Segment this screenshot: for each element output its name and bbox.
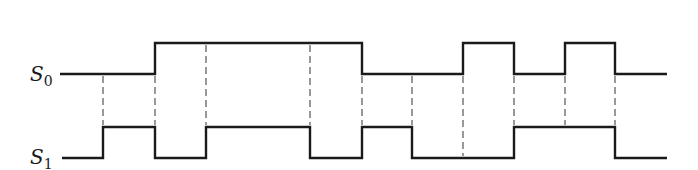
waveform-s0 [60, 43, 667, 74]
signal-label-s1: S1 [30, 145, 53, 170]
timing-diagram: S0 S1 [0, 0, 698, 170]
waveform-s1 [62, 127, 667, 158]
signal-waveforms [60, 43, 667, 158]
signal-label-s0: S0 [30, 62, 53, 89]
dashed-guide-lines [103, 45, 615, 156]
